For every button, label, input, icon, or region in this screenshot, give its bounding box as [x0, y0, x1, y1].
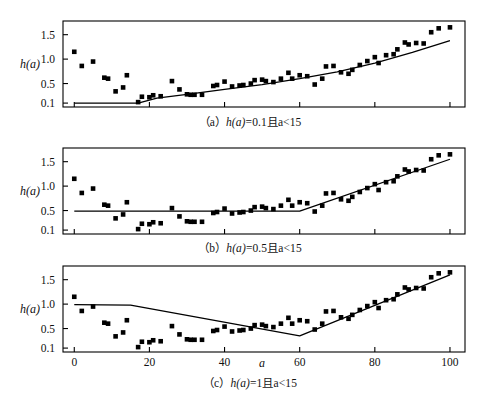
scatter-point: [448, 152, 453, 157]
scatter-point: [136, 345, 141, 350]
scatter-point: [312, 209, 317, 214]
scatter-point: [350, 68, 355, 73]
y-axis-title: h(a): [20, 184, 40, 198]
scatter-point: [312, 327, 317, 332]
scatter-point: [222, 79, 227, 84]
scatter-point: [106, 321, 111, 326]
scatter-point: [215, 328, 220, 333]
caption-c-tail: =1且a<15: [250, 377, 297, 389]
scatter-point: [331, 64, 336, 69]
caption-c-function: h(a): [230, 377, 250, 389]
caption-b-function: h(a): [226, 242, 246, 254]
scatter-point: [241, 83, 246, 88]
y-tick-label: 0.5: [41, 323, 56, 335]
scatter-point: [91, 304, 96, 309]
scatter-point: [241, 328, 246, 333]
scatter-point: [222, 324, 227, 329]
y-tick-label: 1.0: [41, 298, 56, 310]
scatter-point: [290, 76, 295, 81]
scatter-point: [376, 188, 381, 193]
scatter-point: [391, 297, 396, 302]
scatter-point: [241, 210, 246, 215]
scatter-point: [290, 203, 295, 208]
scatter-point: [373, 55, 378, 60]
scatter-point: [436, 153, 441, 158]
x-tick-label: 80: [369, 356, 381, 368]
scatter-point: [429, 275, 434, 280]
scatter-point: [414, 41, 419, 46]
scatter-point: [429, 157, 434, 162]
y-tick-label: 0.5: [41, 78, 56, 90]
caption-b-tail: =0.5且a<15: [246, 242, 302, 254]
scatter-point: [200, 337, 205, 342]
scatter-point: [305, 74, 310, 79]
scatter-point: [279, 76, 284, 81]
scatter-point: [339, 70, 344, 75]
scatter-point: [297, 318, 302, 323]
scatter-point: [170, 206, 175, 211]
scatter-point: [113, 89, 118, 94]
scatter-point: [252, 78, 257, 83]
plot-frame: [63, 148, 465, 234]
scatter-point: [391, 52, 396, 57]
scatter-point: [320, 203, 325, 208]
scatter-point: [200, 219, 205, 224]
x-tick-label: 100: [441, 356, 459, 368]
scatter-point: [320, 76, 325, 81]
scatter-point: [384, 180, 389, 185]
scatter-point: [177, 332, 182, 337]
scatter-point: [136, 227, 141, 232]
figure-container: 0.10.51.01.5h(a) 0.10.51.01.5h(a) 0.10.5…: [0, 0, 500, 411]
scatter-point: [158, 221, 163, 226]
scatter-point: [91, 186, 96, 191]
plot-frame: [63, 266, 465, 352]
scatter-point: [331, 309, 336, 314]
scatter-point: [365, 186, 370, 191]
scatter-point: [358, 308, 363, 313]
scatter-point: [406, 42, 411, 47]
caption-panel-c: （c）h(a)=1且a<15: [0, 374, 500, 390]
scatter-point: [421, 286, 426, 291]
scatter-point: [200, 92, 205, 97]
panel-b: 0.10.51.01.5h(a): [0, 136, 500, 256]
scatter-point: [215, 210, 220, 215]
scatter-point: [373, 300, 378, 305]
scatter-point: [448, 25, 453, 30]
scatter-point: [125, 200, 130, 205]
y-tick-label: 1.5: [41, 274, 56, 286]
scatter-point: [286, 71, 291, 76]
scatter-point: [279, 203, 284, 208]
scatter-point: [151, 338, 156, 343]
scatter-point: [297, 200, 302, 205]
scatter-point: [140, 339, 145, 344]
scatter-point: [140, 221, 145, 226]
scatter-point: [121, 85, 126, 90]
caption-b-prefix: （b）: [198, 242, 226, 254]
scatter-point: [252, 205, 257, 210]
scatter-point: [121, 212, 126, 217]
y-axis-title: h(a): [20, 57, 40, 71]
scatter-point: [395, 292, 400, 297]
scatter-point: [320, 321, 325, 326]
scatter-point: [279, 321, 284, 326]
scatter-point: [324, 191, 329, 196]
x-axis-title: a: [259, 356, 265, 370]
scatter-point: [177, 214, 182, 219]
scatter-point: [297, 73, 302, 78]
scatter-point: [72, 49, 77, 54]
y-tick-label: 1.0: [41, 53, 56, 65]
scatter-point: [215, 83, 220, 88]
scatter-point: [170, 324, 175, 329]
scatter-point: [406, 287, 411, 292]
scatter-point: [350, 195, 355, 200]
scatter-point: [113, 334, 118, 339]
scatter-point: [264, 324, 269, 329]
scatter-point: [286, 198, 291, 203]
y-tick-label: 0.1: [41, 342, 56, 354]
scatter-point: [331, 191, 336, 196]
scatter-point: [365, 304, 370, 309]
scatter-point: [170, 79, 175, 84]
scatter-point: [151, 220, 156, 225]
scatter-point: [346, 71, 351, 76]
scatter-point: [346, 198, 351, 203]
